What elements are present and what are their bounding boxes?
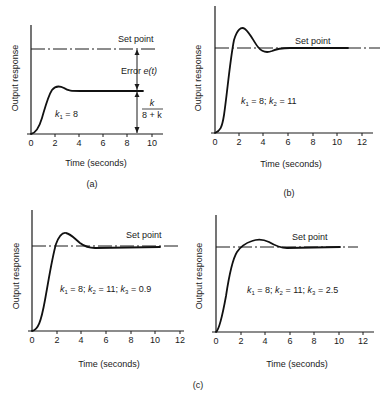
tick-label: 10: [147, 138, 157, 148]
panel-a: Output response 0 2 4 6 8 10 Time (secon…: [10, 25, 163, 189]
panel-a-label: (a): [87, 179, 98, 189]
panel-a-setpoint-label: Set point: [118, 34, 154, 44]
tick-label: 4: [76, 138, 81, 148]
panel-c-left-xlabel: Time (seconds): [78, 359, 140, 369]
panel-c-right: Output response 0 2 4 6 8 10 12 Time (se…: [194, 215, 374, 369]
tick-label: 0: [29, 335, 34, 345]
panel-c-left-setpoint-label: Set point: [126, 230, 162, 240]
tick-label: 2: [52, 138, 57, 148]
tick-label: 6: [285, 137, 290, 147]
tick-label: 8: [311, 336, 316, 346]
panel-c-left: Output response 0 2 4 6 8 10 12 Time (se…: [11, 210, 185, 369]
tick-label: 12: [175, 335, 185, 345]
tick-label: 2: [238, 336, 243, 346]
tick-label: 4: [78, 335, 83, 345]
tick-label: 6: [103, 335, 108, 345]
panel-c-label: (c): [193, 380, 204, 390]
tick-label: 2: [54, 335, 59, 345]
panel-a-fraction-denominator: 8 + k: [142, 110, 162, 120]
panel-c-left-ylabel: Output response: [11, 243, 21, 310]
tick-label: 12: [358, 336, 368, 346]
tick-label: 8: [124, 138, 129, 148]
panel-c-right-xlabel: Time (seconds): [266, 359, 328, 369]
panel-c-right-ylabel: Output response: [194, 243, 204, 310]
panel-c-left-gain-annotation: k1 = 8; k2 = 11; k3 = 0.9: [60, 284, 151, 295]
tick-label: 8: [310, 137, 315, 147]
panel-b-setpoint-label: Set point: [295, 36, 331, 46]
panel-c-left-response-curve: [32, 233, 160, 331]
tick-label: 10: [150, 335, 160, 345]
panel-c-right-gain-annotation: k1 = 8; k2 = 11; k3 = 2.5: [247, 285, 338, 296]
panel-c-right-setpoint-label: Set point: [292, 232, 328, 242]
panel-a-gain-annotation: k1 = 8: [55, 109, 78, 120]
tick-label: 6: [100, 138, 105, 148]
tick-label: 10: [332, 137, 342, 147]
panel-b-xlabel: Time (seconds): [260, 159, 322, 169]
tick-label: 0: [213, 336, 218, 346]
tick-label: 2: [236, 137, 241, 147]
tick-label: 4: [262, 336, 267, 346]
tick-label: 10: [334, 336, 344, 346]
panel-a-ylabel: Output response: [10, 45, 20, 112]
tick-label: 4: [260, 137, 265, 147]
panel-a-fraction-numerator: k: [150, 98, 155, 108]
tick-label: 12: [357, 137, 367, 147]
tick-label: 8: [128, 335, 133, 345]
tick-label: 0: [212, 137, 217, 147]
tick-label: 6: [287, 336, 292, 346]
panel-b-ylabel: Output response: [193, 45, 203, 112]
panel-a-response-curve: [31, 86, 143, 134]
panel-b-gain-annotation: k1 = 8; k2 = 11: [241, 96, 297, 107]
tick-label: 0: [28, 138, 33, 148]
panel-a-xlabel: Time (seconds): [65, 158, 127, 168]
panel-b: Output response 0 2 4 6 8 10 12 Time (se…: [193, 6, 380, 198]
panel-b-label: (b): [284, 188, 295, 198]
panel-a-error-label: Error e(t): [121, 66, 157, 76]
figure-canvas: Output response 0 2 4 6 8 10 Time (secon…: [0, 0, 390, 400]
